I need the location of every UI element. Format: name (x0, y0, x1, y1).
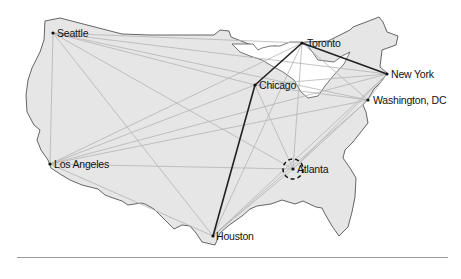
city-label-chicago: Chicago (259, 79, 296, 91)
city-label-houston: Houston (216, 230, 254, 242)
city-dot-seattle (51, 31, 54, 34)
city-label-newyork: New York (391, 68, 435, 80)
city-label-toronto: Toronto (307, 37, 341, 49)
bottom-divider (17, 257, 448, 258)
city-dot-losangeles (48, 162, 51, 165)
city-dot-houston (211, 234, 214, 237)
city-dot-chicago (253, 83, 256, 86)
city-label-seattle: Seattle (57, 27, 89, 39)
city-label-atlanta: Atlanta (297, 163, 329, 175)
city-dot-newyork (385, 72, 388, 75)
network-map: Seattle Toronto Chicago New York Washing… (0, 0, 461, 279)
city-label-washington: Washington, DC (373, 94, 447, 106)
city-dot-washington (366, 98, 369, 101)
city-dot-atlanta (291, 167, 294, 170)
city-label-losangeles: Los Angeles (54, 158, 109, 170)
city-dot-toronto (300, 41, 303, 44)
